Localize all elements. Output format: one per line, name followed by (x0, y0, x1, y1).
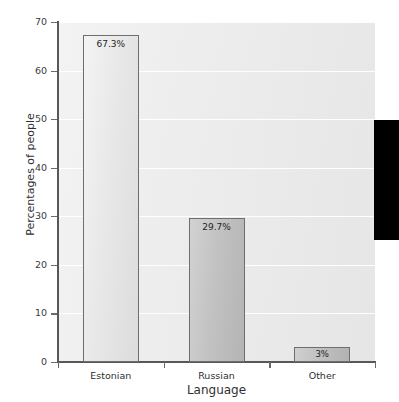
bar-value-label: 3% (295, 350, 349, 359)
bar-russian: 29.7% (189, 218, 245, 362)
x-tick-label: Russian (164, 371, 270, 381)
gridline (58, 22, 375, 23)
y-tick-mark (51, 119, 57, 120)
y-tick-label: 60 (7, 66, 47, 76)
x-tick-mark (269, 362, 270, 368)
bar-other: 3% (294, 347, 350, 362)
x-tick-mark (375, 362, 376, 368)
bar-estonian: 67.3% (83, 35, 139, 362)
y-tick-mark (51, 313, 57, 314)
bar-value-label: 67.3% (84, 40, 138, 49)
y-tick-mark (51, 168, 57, 169)
y-tick-mark (51, 265, 57, 266)
black-block-artifact (374, 120, 399, 240)
bar-value-label: 29.7% (190, 223, 244, 232)
y-tick-mark (51, 71, 57, 72)
y-tick-label: 10 (7, 308, 47, 318)
bar-chart-figure: 010203040506070 EstonianRussianOther 67.… (0, 0, 399, 402)
y-tick-mark (51, 362, 57, 363)
x-axis-title: Language (58, 383, 375, 397)
y-tick-mark (51, 216, 57, 217)
y-axis-line (57, 21, 59, 363)
y-tick-mark (51, 22, 57, 23)
y-tick-label: 0 (7, 357, 47, 367)
x-tick-mark (164, 362, 165, 368)
x-tick-label: Estonian (58, 371, 164, 381)
y-axis-title: Percentages of people (24, 85, 37, 265)
y-tick-label: 70 (7, 17, 47, 27)
x-tick-label: Other (269, 371, 375, 381)
x-tick-mark (58, 362, 59, 368)
